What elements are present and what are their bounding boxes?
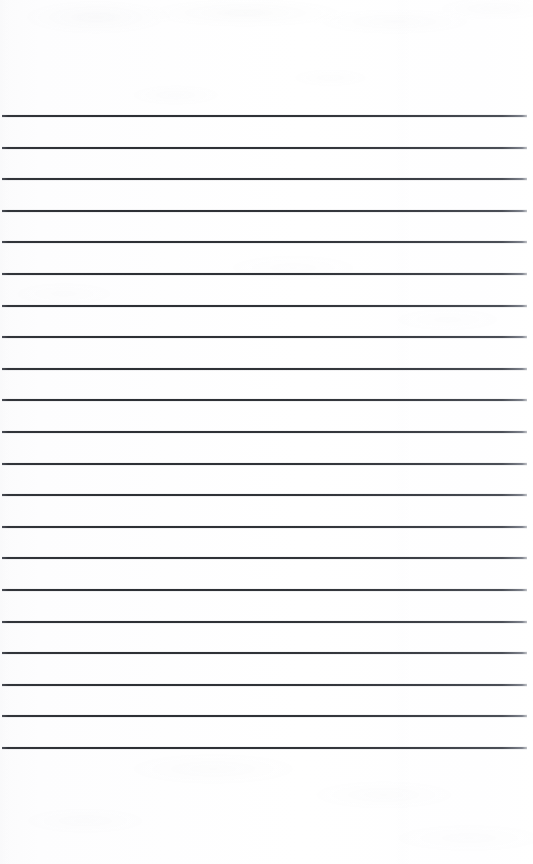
ruled-line-ink — [2, 241, 527, 243]
ruled-line — [2, 273, 527, 275]
ruled-line — [2, 115, 527, 117]
ruled-line — [2, 210, 527, 212]
ruled-line — [2, 463, 527, 465]
scanned-page — [0, 0, 533, 864]
ruled-line-ink — [2, 557, 527, 559]
ruled-line — [2, 526, 527, 528]
ruled-line-ink — [2, 368, 527, 370]
ruled-line-ink — [2, 589, 527, 591]
ruled-line — [2, 652, 527, 654]
ruled-line-ink — [2, 115, 527, 117]
ruled-line — [2, 147, 527, 149]
ruled-line — [2, 494, 527, 496]
ruled-line-ink — [2, 463, 527, 465]
ruled-line-ink — [2, 684, 527, 686]
ruled-line-ink — [2, 336, 527, 338]
ruled-line-ink — [2, 621, 527, 623]
ruled-line-ink — [2, 399, 527, 401]
ruled-line-ink — [2, 652, 527, 654]
ruled-line — [2, 715, 527, 717]
ruled-line — [2, 589, 527, 591]
ruled-line-ink — [2, 715, 527, 717]
ruled-line — [2, 557, 527, 559]
ruled-line — [2, 368, 527, 370]
ruled-line-ink — [2, 526, 527, 528]
ruled-line-ink — [2, 305, 527, 307]
ruled-line-ink — [2, 147, 527, 149]
ruled-line — [2, 747, 527, 749]
ruled-line-ink — [2, 747, 527, 749]
ruled-lines-group — [0, 0, 533, 864]
ruled-line — [2, 399, 527, 401]
ruled-line — [2, 621, 527, 623]
ruled-line-ink — [2, 494, 527, 496]
ruled-line — [2, 336, 527, 338]
ruled-line — [2, 241, 527, 243]
ruled-line-ink — [2, 178, 527, 180]
ruled-line-ink — [2, 431, 527, 433]
ruled-line-ink — [2, 210, 527, 212]
ruled-line — [2, 684, 527, 686]
ruled-line-ink — [2, 273, 527, 275]
ruled-line — [2, 305, 527, 307]
ruled-line — [2, 431, 527, 433]
ruled-line — [2, 178, 527, 180]
